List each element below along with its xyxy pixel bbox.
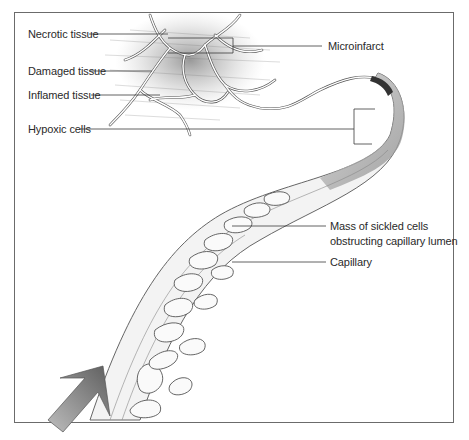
label-damaged-tissue: Damaged tissue <box>28 65 106 78</box>
label-capillary: Capillary <box>330 256 372 269</box>
label-mass-line2: obstructing capillary lumen <box>330 235 458 248</box>
tissue-network <box>105 10 375 135</box>
label-hypoxic-cells: Hypoxic cells <box>28 123 91 136</box>
label-mass-line1: Mass of sickled cells <box>330 220 428 233</box>
label-inflamed-tissue: Inflamed tissue <box>28 89 100 102</box>
label-microinfarct: Microinfarct <box>328 40 384 53</box>
label-necrotic-tissue: Necrotic tissue <box>28 28 99 41</box>
